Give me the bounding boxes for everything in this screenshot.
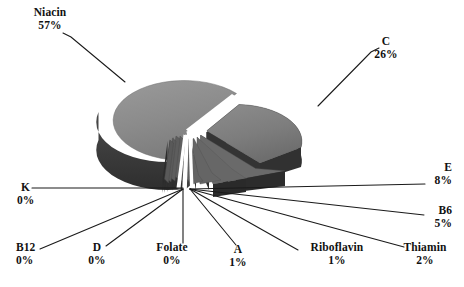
- slice-label-e-percent: 8%: [395, 174, 452, 187]
- slice-label-riboflavin-percent: 1%: [299, 254, 375, 267]
- slice-label-riboflavin-name: Riboflavin: [299, 241, 375, 254]
- slice-label-thiamin: Thiamin 2%: [396, 241, 454, 267]
- slice-label-k: K 0%: [17, 181, 51, 207]
- slice-label-b12-name: B12: [16, 241, 56, 254]
- slice-label-d-percent: 0%: [84, 254, 110, 267]
- slice-label-b12: B12 0%: [16, 241, 56, 267]
- pie-chart-figure: Niacin 57% C 26% E 8% B6 5% Thiamin 2% R…: [0, 0, 464, 287]
- slice-label-b6-name: B6: [395, 204, 452, 217]
- leader-line-riboflavin: [190, 189, 298, 250]
- slice-label-c-name: C: [364, 35, 408, 48]
- slice-label-thiamin-name: Thiamin: [396, 241, 454, 254]
- leader-line-b12: [40, 189, 183, 249]
- slice-label-folate-name: Folate: [148, 241, 196, 254]
- leader-line-thiamin: [190, 189, 404, 247]
- slice-label-e-name: E: [395, 161, 452, 174]
- slice-label-b6-percent: 5%: [395, 217, 452, 230]
- slice-label-riboflavin: Riboflavin 1%: [299, 241, 375, 267]
- slice-label-a: A 1%: [223, 243, 253, 269]
- slice-label-b12-percent: 0%: [16, 254, 56, 267]
- slice-label-e: E 8%: [395, 161, 452, 187]
- slice-label-d-name: D: [84, 241, 110, 254]
- slice-label-c: C 26%: [364, 35, 408, 61]
- slice-label-a-name: A: [223, 243, 253, 256]
- slice-label-d: D 0%: [84, 241, 110, 267]
- slice-label-a-percent: 1%: [223, 256, 253, 269]
- slice-label-c-percent: 26%: [364, 48, 408, 61]
- leader-line-a: [190, 189, 236, 245]
- slice-label-b6: B6 5%: [395, 204, 452, 230]
- leader-line-b6: [190, 189, 424, 215]
- slice-label-niacin: Niacin 57%: [22, 6, 78, 32]
- slice-label-k-name: K: [17, 181, 51, 194]
- leader-line-niacin: [63, 33, 125, 82]
- slice-label-k-percent: 0%: [17, 194, 51, 207]
- slice-label-folate-percent: 0%: [148, 254, 196, 267]
- slice-label-niacin-percent: 57%: [22, 19, 78, 32]
- slice-label-niacin-name: Niacin: [22, 6, 78, 19]
- slice-label-thiamin-percent: 2%: [396, 254, 454, 267]
- leader-line-d: [106, 189, 183, 246]
- slice-label-folate: Folate 0%: [148, 241, 196, 267]
